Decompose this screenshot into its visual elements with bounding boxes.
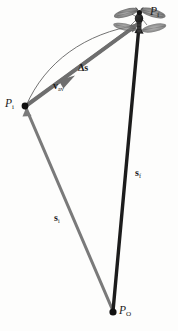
physics-vector-diagram: Pf Pi PO Δs vav sf si — [0, 0, 178, 331]
label-final-position-vector: sf — [135, 168, 141, 178]
label-final-position-sub: f — [139, 172, 141, 179]
diagram-canvas — [0, 0, 178, 331]
label-point-origin: PO — [119, 305, 131, 317]
label-point-origin-base: P — [119, 304, 126, 316]
label-displacement-vector: Δs — [78, 63, 88, 73]
label-initial-position-sub: i — [58, 217, 60, 224]
label-point-initial: Pi — [5, 98, 14, 110]
label-point-final: Pf — [150, 6, 159, 18]
label-displacement-base: Δs — [78, 62, 88, 73]
label-initial-position-vector: si — [54, 213, 60, 223]
label-point-origin-sub: O — [126, 310, 131, 318]
point-marker-PO — [109, 308, 116, 315]
label-point-initial-base: P — [5, 97, 12, 109]
label-average-velocity-vector: vav — [53, 81, 64, 91]
point-marker-Pi — [22, 103, 29, 110]
initial-position-vector-line — [26, 108, 113, 311]
label-point-initial-sub: i — [12, 103, 14, 111]
label-average-velocity-sub: av — [58, 85, 64, 92]
label-point-final-base: P — [150, 5, 157, 17]
